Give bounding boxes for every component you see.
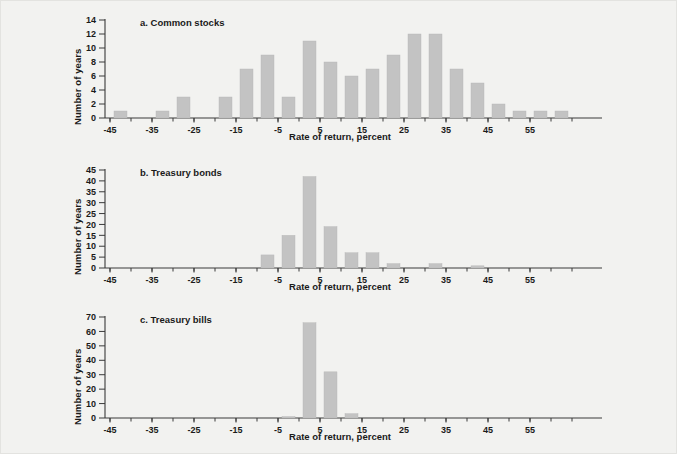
bar xyxy=(408,34,421,118)
bar xyxy=(366,253,379,268)
bar xyxy=(303,177,316,268)
bar xyxy=(471,266,484,268)
svg-text:45: 45 xyxy=(483,125,493,135)
svg-text:10: 10 xyxy=(86,43,96,53)
svg-text:30: 30 xyxy=(86,198,96,208)
svg-text:35: 35 xyxy=(441,275,451,285)
bar xyxy=(219,97,232,118)
svg-text:-35: -35 xyxy=(145,275,158,285)
bar xyxy=(282,417,295,418)
svg-text:35: 35 xyxy=(441,425,451,435)
svg-text:55: 55 xyxy=(525,275,535,285)
svg-text:15: 15 xyxy=(86,231,96,241)
panel-treasury-bills: Number of years c. Treasury bills 010203… xyxy=(0,297,677,454)
bar xyxy=(429,264,442,268)
panel-a-y-axis-title: Number of years xyxy=(72,49,83,125)
svg-text:25: 25 xyxy=(86,209,96,219)
bar xyxy=(282,97,295,118)
bar xyxy=(324,227,337,268)
svg-text:0: 0 xyxy=(91,113,96,123)
svg-text:-45: -45 xyxy=(103,425,116,435)
panel-a-title: a. Common stocks xyxy=(140,17,224,28)
panel-b-title: b. Treasury bonds xyxy=(140,167,222,178)
svg-text:35: 35 xyxy=(441,125,451,135)
svg-text:14: 14 xyxy=(86,15,96,25)
bar xyxy=(177,97,190,118)
bar xyxy=(450,69,463,118)
svg-text:40: 40 xyxy=(86,355,96,365)
panel-c-x-axis-title: Rate of return, percent xyxy=(240,431,440,442)
svg-text:20: 20 xyxy=(86,220,96,230)
bar xyxy=(429,34,442,118)
svg-text:2: 2 xyxy=(91,99,96,109)
svg-text:10: 10 xyxy=(86,241,96,251)
bar xyxy=(240,69,253,118)
bar xyxy=(471,83,484,118)
svg-text:45: 45 xyxy=(483,425,493,435)
svg-text:4: 4 xyxy=(91,85,96,95)
panel-common-stocks: Number of years a. Common stocks 0246810… xyxy=(0,0,677,150)
bar xyxy=(282,235,295,268)
svg-text:6: 6 xyxy=(91,71,96,81)
panel-c-y-axis-title: Number of years xyxy=(72,349,83,425)
panel-b-x-axis-title: Rate of return, percent xyxy=(240,281,440,292)
panel-c-title: c. Treasury bills xyxy=(140,314,212,325)
bar xyxy=(303,323,316,418)
svg-text:-45: -45 xyxy=(103,125,116,135)
svg-text:0: 0 xyxy=(91,413,96,423)
svg-text:50: 50 xyxy=(86,341,96,351)
svg-text:-25: -25 xyxy=(187,125,200,135)
svg-text:12: 12 xyxy=(86,29,96,39)
panel-a-x-axis-title: Rate of return, percent xyxy=(240,131,440,142)
svg-text:-25: -25 xyxy=(187,425,200,435)
svg-text:-35: -35 xyxy=(145,125,158,135)
svg-text:-45: -45 xyxy=(103,275,116,285)
svg-text:70: 70 xyxy=(86,312,96,322)
histogram-figure: Number of years a. Common stocks 0246810… xyxy=(0,0,677,454)
panel-b-plot: 051015202530354045-45-35-25-15-551525354… xyxy=(0,150,677,285)
bar xyxy=(261,255,274,268)
svg-text:5: 5 xyxy=(91,252,96,262)
bar xyxy=(492,104,505,118)
bar xyxy=(534,111,547,118)
svg-text:55: 55 xyxy=(525,425,535,435)
svg-text:35: 35 xyxy=(86,187,96,197)
bar xyxy=(555,111,568,118)
bar xyxy=(387,264,400,268)
svg-text:45: 45 xyxy=(483,275,493,285)
panel-a-plot: 02468101214-45-35-25-15-551525354555 xyxy=(0,0,677,135)
svg-text:0: 0 xyxy=(91,263,96,273)
bar xyxy=(345,414,358,418)
svg-text:40: 40 xyxy=(86,176,96,186)
bar xyxy=(345,76,358,118)
bar xyxy=(345,253,358,268)
svg-text:8: 8 xyxy=(91,57,96,67)
bar xyxy=(366,69,379,118)
bar xyxy=(156,111,169,118)
svg-text:-25: -25 xyxy=(187,275,200,285)
bar xyxy=(387,55,400,118)
svg-text:60: 60 xyxy=(86,327,96,337)
panel-b-y-axis-title: Number of years xyxy=(72,199,83,275)
svg-text:-35: -35 xyxy=(145,425,158,435)
svg-text:30: 30 xyxy=(86,370,96,380)
svg-text:45: 45 xyxy=(86,165,96,175)
svg-text:10: 10 xyxy=(86,399,96,409)
bar xyxy=(513,111,526,118)
svg-text:20: 20 xyxy=(86,384,96,394)
bar xyxy=(324,372,337,418)
panel-c-plot: 010203040506070-45-35-25-15-551525354555 xyxy=(0,297,677,435)
svg-text:55: 55 xyxy=(525,125,535,135)
bar xyxy=(324,62,337,118)
bar xyxy=(303,41,316,118)
bar xyxy=(261,55,274,118)
panel-treasury-bonds: Number of years b. Treasury bonds 051015… xyxy=(0,150,677,300)
bar xyxy=(114,111,127,118)
